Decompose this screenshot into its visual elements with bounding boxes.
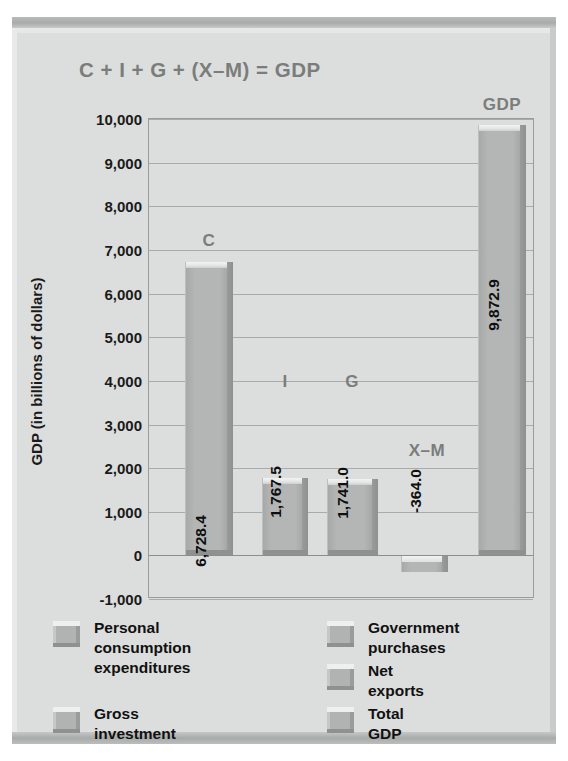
legend-swatch-government-purchases	[327, 621, 354, 647]
gridline-8000: 8,000	[149, 206, 533, 207]
legend-swatch-total-gdp	[327, 707, 354, 733]
bar-symbol-c: C	[203, 231, 216, 251]
plot-area: 10,000 9,000 8,000 7,000 6,000 5,000 4,0…	[148, 118, 534, 598]
chart-body: C + I + G + (X–M) = GDP GDP (in billions…	[17, 33, 550, 732]
bar-value-i: 1,767.5	[267, 466, 285, 518]
y-tick-5000: 5,000	[104, 329, 142, 346]
gridline-9000: 9,000	[149, 163, 533, 164]
legend-swatch-net-exports	[327, 664, 354, 690]
bar-right-shadow	[442, 556, 448, 572]
bar-value-gdp: 9,872.9	[485, 280, 503, 332]
bar-personal-consumption[interactable]: 6,728.4	[185, 262, 233, 556]
y-tick-9000: 9,000	[104, 154, 142, 171]
bar-total-gdp[interactable]: 9,872.9	[478, 125, 526, 556]
gridline-10000: 10,000	[149, 119, 533, 120]
legend-swatch-personal-consumption	[53, 621, 80, 647]
y-tick-0: 0	[134, 547, 142, 564]
legend-label-government-purchases: Government purchases	[368, 618, 459, 658]
bar-base-shadow	[263, 550, 308, 555]
bar-symbol-i: I	[282, 372, 287, 392]
y-tick-7000: 7,000	[104, 241, 142, 258]
legend-label-personal-consumption: Personal consumption expenditures	[94, 618, 191, 678]
gridline-minus1000: -1,000	[149, 599, 533, 600]
bar-symbol-xm: X–M	[409, 441, 445, 461]
y-tick-4000: 4,000	[104, 372, 142, 389]
y-tick-minus-1000: -1,000	[99, 591, 142, 608]
y-tick-2000: 2,000	[104, 460, 142, 477]
y-tick-1000: 1,000	[104, 503, 142, 520]
chart-figure: C + I + G + (X–M) = GDP GDP (in billions…	[12, 17, 556, 744]
bar-top-highlight	[186, 262, 233, 268]
bar-right-shadow	[227, 262, 233, 556]
bar-right-shadow	[372, 479, 378, 555]
bar-base-shadow	[479, 550, 526, 555]
legend-label-total-gdp: Total GDP	[368, 704, 404, 744]
bar-value-c: 6,728.4	[192, 516, 210, 568]
bar-value-xm: -364.0	[407, 469, 425, 513]
y-tick-10000: 10,000	[96, 111, 142, 128]
bar-right-shadow	[520, 125, 526, 556]
y-tick-3000: 3,000	[104, 416, 142, 433]
bar-value-g: 1,741.0	[334, 467, 352, 519]
legend-swatch-gross-investment	[53, 707, 80, 733]
legend-label-gross-investment: Gross investment	[94, 704, 176, 744]
y-tick-6000: 6,000	[104, 285, 142, 302]
bar-symbol-gdp: GDP	[483, 95, 521, 115]
bar-symbol-g: G	[345, 372, 359, 392]
legend-label-net-exports: Net exports	[368, 661, 424, 701]
y-axis-title: GDP (in billions of dollars)	[28, 192, 45, 552]
chart-title: C + I + G + (X–M) = GDP	[79, 58, 321, 82]
y-tick-8000: 8,000	[104, 198, 142, 215]
bar-base-shadow	[328, 550, 378, 555]
bar-net-exports[interactable]	[401, 556, 448, 572]
bar-right-shadow	[302, 478, 308, 555]
frame-bevel-top	[12, 17, 556, 28]
frame-bevel-right	[550, 28, 556, 732]
bar-top-highlight	[479, 125, 526, 131]
